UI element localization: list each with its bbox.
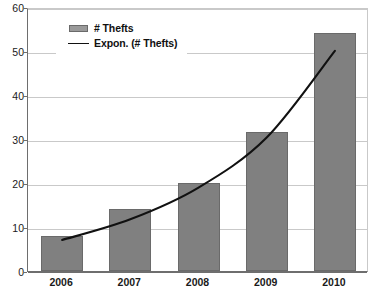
line-swatch-icon [62, 43, 94, 44]
y-tick-label: 30 [0, 135, 24, 146]
y-tick-label: 10 [0, 223, 24, 234]
x-tick-label-2006: 2006 [27, 277, 95, 288]
x-tick-label-2009: 2009 [232, 277, 300, 288]
y-tick-mark [23, 272, 27, 273]
trendline-path [62, 51, 335, 240]
y-tick-label: 0 [0, 267, 24, 278]
y-tick-label: 20 [0, 179, 24, 190]
legend-label-expon: Expon. (# Thefts) [94, 38, 177, 49]
x-tick-label-2008: 2008 [163, 277, 231, 288]
legend-label-thefts: # Thefts [94, 23, 133, 34]
plot-area: # Thefts Expon. (# Thefts) [27, 8, 368, 272]
legend-entry-expon: Expon. (# Thefts) [62, 36, 177, 51]
y-tick-label: 60 [0, 3, 24, 14]
x-tick-label-2007: 2007 [95, 277, 163, 288]
y-tick-label: 40 [0, 91, 24, 102]
bar-chart: 0102030405060 # Thefts Expon. (# Thefts) [0, 0, 387, 295]
bar-swatch-icon [62, 25, 94, 32]
x-tick-label-2010: 2010 [300, 277, 368, 288]
legend-entry-thefts: # Thefts [62, 21, 177, 36]
y-tick-label: 50 [0, 47, 24, 58]
legend: # Thefts Expon. (# Thefts) [56, 18, 187, 55]
